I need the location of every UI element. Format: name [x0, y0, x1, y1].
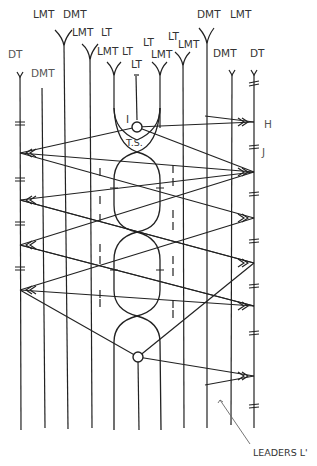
label: LT [143, 36, 154, 48]
label: LT [122, 45, 133, 57]
label: LT [131, 58, 142, 70]
thread-lmt-1 [64, 46, 68, 429]
label: LMT [178, 38, 200, 50]
label: DMT [31, 67, 55, 79]
diagonal [20, 290, 254, 306]
lace-diagram: DT DMT LMT DMT LMT LT LMT LT LT LT LMT L… [0, 0, 317, 466]
thread-end-icon [229, 70, 235, 75]
thread-lmt-2 [90, 60, 92, 428]
crossing-tick [110, 188, 164, 270]
pin-circle-bottom [133, 352, 143, 362]
leader-line [220, 400, 250, 444]
thread-end-icon [17, 72, 23, 77]
pin-arrow-icon [26, 196, 36, 204]
label: LMT [33, 8, 55, 20]
thread-dt-left [20, 77, 21, 430]
diagonal [137, 127, 254, 172]
label-j: J [261, 146, 265, 158]
thread-end-icon [251, 70, 257, 75]
thread-lt-1 [136, 76, 137, 120]
pin-arrow-icon [238, 259, 248, 267]
label: LMT [230, 8, 252, 20]
pair-fork-icon [199, 28, 214, 44]
pair-fork-icon [107, 62, 121, 76]
thread-lt-bottom [138, 360, 139, 430]
pin-arrow-icon [238, 372, 248, 380]
pin-arrow-icon [26, 149, 36, 157]
label: DMT [63, 8, 87, 20]
thread-labels: DT DMT LMT DMT LMT LT LMT LT LT LT LMT L… [8, 8, 265, 79]
pair-fork-icon [152, 62, 167, 76]
label: LMT [72, 26, 94, 38]
edge-ticks [15, 122, 259, 408]
thread-dmt-left [42, 88, 45, 428]
oval-2 [114, 232, 160, 316]
label-h: H [264, 118, 272, 130]
diagonal [20, 290, 254, 376]
caption-leaders: LEADERS L' [253, 447, 308, 458]
pin-circle-i [132, 122, 142, 132]
thread-lmt-3 [183, 66, 184, 428]
label-ts: T.S. [125, 137, 143, 148]
label: DT [250, 47, 265, 59]
label: LMT [97, 45, 119, 57]
label: DT [8, 48, 23, 60]
label-i: I [126, 113, 129, 125]
label: DMT [197, 8, 221, 20]
pair-fork-icon [82, 44, 98, 60]
diagonal [138, 263, 254, 357]
label: DMT [213, 47, 237, 59]
pair-fork-icon [175, 52, 190, 66]
label: LMT [151, 48, 173, 60]
diagonal-threads [20, 116, 254, 385]
label: LT [101, 26, 112, 38]
pair-fork-icon [55, 30, 72, 46]
oval-bottom [114, 316, 161, 430]
crossing-ticks [100, 165, 173, 318]
